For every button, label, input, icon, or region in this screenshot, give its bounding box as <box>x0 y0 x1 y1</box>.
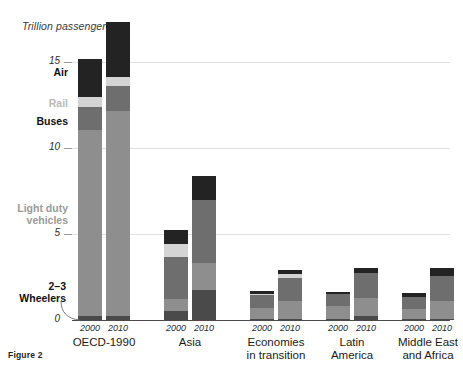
bar-segment-light-duty-vehicles <box>106 111 130 316</box>
bar-segment-light-duty-vehicles <box>402 309 426 319</box>
annotation-ldv-line1: Light duty <box>17 202 68 214</box>
x-group-label-line: Economies <box>248 336 305 348</box>
annotation-air: Air <box>18 67 68 79</box>
bar-segment-buses <box>106 86 130 111</box>
bar-asia-2000 <box>164 230 188 320</box>
bar-segment-light-duty-vehicles <box>326 306 350 319</box>
bar-oecd-1990-2010 <box>106 22 130 320</box>
bar-segment-2-3-wheelers <box>164 311 188 320</box>
ytick-dash-10 <box>64 148 72 149</box>
x-year-label-latin-america-2010: 2010 <box>349 323 383 333</box>
bar-segment-2-3-wheelers <box>278 319 302 320</box>
x-group-label-line: in transition <box>247 349 306 361</box>
bar-middle-east-and-africa-2010 <box>430 268 454 320</box>
bar-segment-buses <box>278 278 302 301</box>
bar-latin-america-2000 <box>326 292 350 320</box>
bar-segment-rail <box>164 244 188 257</box>
bar-economies-in-transition-2010 <box>278 270 302 320</box>
x-group-label-line: Asia <box>179 336 201 348</box>
ytick-dash-15 <box>64 62 72 63</box>
bar-segment-buses <box>430 276 454 301</box>
x-group-label-oecd-1990: OECD-1990 <box>54 336 154 349</box>
bar-segment-air <box>430 268 454 276</box>
bar-latin-america-2010 <box>354 268 378 320</box>
x-group-label-line: and Africa <box>402 349 453 361</box>
x-group-label-line: Middle East <box>398 336 458 348</box>
bar-economies-in-transition-2000 <box>250 291 274 320</box>
bar-asia-2010 <box>192 176 216 320</box>
bar-segment-light-duty-vehicles <box>78 130 102 316</box>
bar-segment-air <box>106 22 130 76</box>
bar-segment-buses <box>354 273 378 298</box>
annotation-light-duty-vehicles: Light duty vehicles <box>0 203 68 226</box>
bar-segment-buses <box>326 294 350 306</box>
x-year-label-asia-2010: 2010 <box>187 323 221 333</box>
bar-segment-2-3-wheelers <box>354 316 378 320</box>
bar-segment-buses <box>78 107 102 130</box>
annotation-rail: Rail <box>18 98 68 110</box>
bar-segment-air <box>164 230 188 245</box>
axis-baseline <box>72 320 450 321</box>
bar-segment-buses <box>402 297 426 309</box>
annotation-wheelers: 2–3 Wheelers <box>0 281 66 304</box>
x-group-label-asia: Asia <box>140 336 240 349</box>
x-group-label-line: OECD-1990 <box>73 336 136 348</box>
bar-segment-2-3-wheelers <box>326 319 350 320</box>
ytick-dash-5 <box>64 234 72 235</box>
x-year-label-oecd-1990-2010: 2010 <box>101 323 135 333</box>
bar-segment-air <box>78 59 102 98</box>
bar-segment-buses <box>164 257 188 299</box>
annotation-wheelers-line1: 2–3 <box>48 280 66 292</box>
bar-middle-east-and-africa-2000 <box>402 293 426 321</box>
bar-segment-2-3-wheelers <box>106 316 130 320</box>
bar-segment-buses <box>192 200 216 264</box>
bar-segment-light-duty-vehicles <box>278 301 302 319</box>
annotation-wheelers-line2: Wheelers <box>19 292 66 304</box>
bar-segment-light-duty-vehicles <box>164 299 188 310</box>
x-group-label-line: America <box>331 349 373 361</box>
bar-segment-buses <box>250 295 274 308</box>
x-group-label-line: Latin <box>340 336 365 348</box>
bar-segment-2-3-wheelers <box>430 319 454 320</box>
bar-segment-rail <box>106 77 130 86</box>
ytick-label-0: 0 <box>34 313 60 324</box>
figure-caption: Figure 2 <box>8 350 43 360</box>
bar-segment-2-3-wheelers <box>402 319 426 320</box>
bar-segment-rail <box>78 97 102 106</box>
annotation-buses: Buses <box>8 116 68 128</box>
bar-segment-light-duty-vehicles <box>430 301 454 319</box>
x-year-label-middle-east-and-africa-2010: 2010 <box>425 323 459 333</box>
ytick-label-10: 10 <box>34 141 60 152</box>
ytick-label-15: 15 <box>34 55 60 66</box>
x-group-label-middle-east-and-africa: Middle Eastand Africa <box>378 336 463 361</box>
bar-segment-light-duty-vehicles <box>192 263 216 290</box>
annotation-ldv-line2: vehicles <box>27 214 68 226</box>
wheelers-leader-line <box>60 300 86 322</box>
bar-segment-2-3-wheelers <box>250 319 274 320</box>
bar-segment-2-3-wheelers <box>192 290 216 320</box>
bar-segment-light-duty-vehicles <box>354 298 378 316</box>
ytick-label-5: 5 <box>34 227 60 238</box>
bar-segment-air <box>192 176 216 200</box>
bar-segment-light-duty-vehicles <box>250 308 274 319</box>
bar-oecd-1990-2000 <box>78 59 102 320</box>
x-year-label-economies-in-transition-2010: 2010 <box>273 323 307 333</box>
